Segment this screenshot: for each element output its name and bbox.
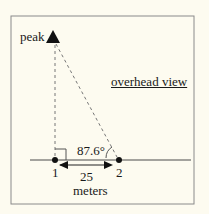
peak-label: peak xyxy=(20,30,45,43)
point-2-dot xyxy=(116,157,122,163)
arrow-left-icon xyxy=(59,161,68,169)
unit-label: meters xyxy=(73,184,108,197)
point-1-dot xyxy=(52,157,58,163)
frame-border xyxy=(11,16,194,204)
angle-arc xyxy=(106,147,112,158)
point-1-label: 1 xyxy=(52,166,59,179)
point-2-label: 2 xyxy=(116,166,123,179)
arrow-right-icon xyxy=(104,161,113,169)
peak-triangle-icon xyxy=(46,30,60,43)
angle-label: 87.6° xyxy=(77,144,105,157)
view-label: overhead view xyxy=(111,75,187,88)
distance-label: 25 xyxy=(80,170,93,183)
sightline-diagonal xyxy=(56,44,117,157)
